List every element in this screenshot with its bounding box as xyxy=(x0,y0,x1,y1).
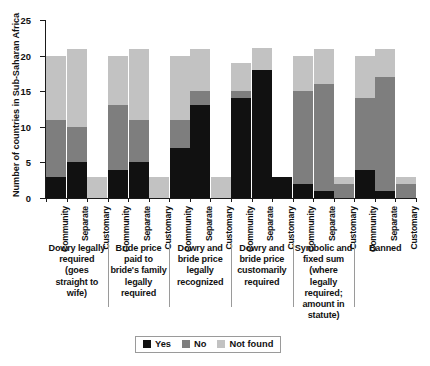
x-tick xyxy=(46,198,47,202)
y-tick-0: 0 xyxy=(40,198,45,199)
chart-legend: YesNoNot found xyxy=(135,336,281,353)
bar-segment-no xyxy=(396,184,416,198)
bar-segment-yes xyxy=(231,98,251,198)
legend-label: No xyxy=(194,339,206,349)
bar-segment-not-found xyxy=(108,56,128,106)
x-tick xyxy=(210,198,211,202)
x-label-separate: Separate xyxy=(265,206,275,241)
bar-4-customary xyxy=(334,177,354,198)
bar-segment-yes xyxy=(129,162,149,198)
group-label-4: Symbolic and fixed sum (where legally re… xyxy=(295,243,353,321)
bar-segment-yes xyxy=(190,105,210,198)
bar-1-separate xyxy=(129,49,149,199)
legend-label: Yes xyxy=(155,339,171,349)
y-tick-label-10: 10 xyxy=(21,121,31,132)
bar-segment-no xyxy=(129,120,149,163)
bar-segment-no xyxy=(375,77,395,191)
y-tick-20: 20 xyxy=(40,56,45,57)
y-tick-25: 25 xyxy=(40,20,45,21)
bar-segment-yes xyxy=(252,70,272,198)
bar-segment-no xyxy=(170,120,190,148)
bar-segment-not-found xyxy=(149,177,169,198)
x-tick xyxy=(169,198,170,202)
group-separator xyxy=(293,243,294,307)
bar-5-customary xyxy=(396,177,416,198)
x-tick xyxy=(313,198,314,202)
bar-0-separate xyxy=(67,49,87,199)
y-tick-label-25: 25 xyxy=(21,15,31,26)
group-label-0: Dowry legally required (goes straight to… xyxy=(48,243,106,299)
legend-swatch-icon xyxy=(143,340,151,348)
x-tick xyxy=(67,198,68,202)
group-separator xyxy=(169,243,170,307)
x-tick xyxy=(416,198,417,202)
bar-0-customary xyxy=(87,177,107,198)
bar-5-separate xyxy=(375,49,395,198)
bar-segment-no xyxy=(293,91,313,184)
x-tick xyxy=(87,198,88,202)
legend-item-not-found: Not found xyxy=(217,339,273,349)
x-tick xyxy=(354,198,355,202)
x-tick xyxy=(128,198,129,202)
group-label-row: Dowry legally required (goes straight to… xyxy=(46,243,416,327)
bar-5-community xyxy=(355,56,375,198)
group-label-5: Banned xyxy=(356,243,414,254)
legend-swatch-icon xyxy=(182,340,190,348)
bar-4-community xyxy=(293,56,313,198)
y-tick-5: 5 xyxy=(40,162,45,163)
bar-1-community xyxy=(108,56,128,198)
bar-segment-no xyxy=(67,127,87,163)
bar-segment-not-found xyxy=(396,177,416,184)
y-tick-10: 10 xyxy=(40,127,45,128)
bar-segment-not-found xyxy=(355,56,375,99)
bar-segment-not-found xyxy=(170,56,190,120)
legend-item-yes: Yes xyxy=(143,339,171,349)
y-tick-label-20: 20 xyxy=(21,50,31,61)
bar-4-separate xyxy=(314,49,334,199)
bar-3-community xyxy=(231,63,251,198)
x-label-separate: Separate xyxy=(80,206,90,241)
x-label-separate: Separate xyxy=(142,206,152,241)
bar-segment-no xyxy=(355,98,375,169)
bar-segment-yes xyxy=(355,170,375,198)
bar-segment-not-found xyxy=(129,49,149,120)
group-label-3: Dowry and bride price customarily requir… xyxy=(233,243,291,288)
group-separator xyxy=(354,243,355,307)
group-separator xyxy=(231,243,232,307)
bar-1-customary xyxy=(149,177,169,198)
bar-segment-no xyxy=(46,120,66,177)
group-separator xyxy=(108,243,109,307)
bar-segment-not-found xyxy=(375,49,395,77)
bar-segment-yes xyxy=(46,177,66,198)
bar-segment-not-found xyxy=(314,49,334,85)
bar-2-customary xyxy=(211,177,231,198)
x-tick xyxy=(149,198,150,202)
bar-segment-yes xyxy=(293,184,313,198)
bar-2-separate xyxy=(190,49,210,199)
x-label-separate: Separate xyxy=(204,206,214,241)
bar-segment-not-found xyxy=(231,63,251,91)
group-label-1: Bride price paid to bride's family legal… xyxy=(110,243,168,299)
x-label-separate: Separate xyxy=(327,206,337,241)
bar-segment-yes xyxy=(108,170,128,198)
bar-segment-yes xyxy=(272,177,292,198)
bar-0-community xyxy=(46,56,66,198)
y-tick-15: 15 xyxy=(40,91,45,92)
bar-segment-not-found xyxy=(252,48,272,69)
x-tick xyxy=(108,198,109,202)
bar-segment-no xyxy=(334,184,354,198)
x-tick xyxy=(334,198,335,202)
x-tick xyxy=(252,198,253,202)
bar-3-customary xyxy=(272,177,292,198)
bar-3-separate xyxy=(252,48,272,198)
legend-item-no: No xyxy=(182,339,206,349)
y-tick-label-15: 15 xyxy=(21,86,31,97)
y-tick-label-0: 0 xyxy=(26,193,31,204)
bar-segment-no xyxy=(231,91,251,98)
x-label-separate: Separate xyxy=(389,206,399,241)
x-tick xyxy=(190,198,191,202)
legend-label: Not found xyxy=(229,339,273,349)
bar-segment-yes xyxy=(170,148,190,198)
x-tick xyxy=(231,198,232,202)
x-tick xyxy=(395,198,396,202)
